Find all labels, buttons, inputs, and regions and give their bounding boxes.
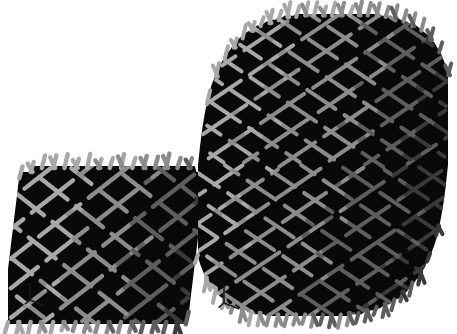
lattice-void-backdrop <box>198 14 448 316</box>
small-lattice-render <box>0 0 210 334</box>
small-woven-lattice-specimen <box>0 0 210 334</box>
large-lattice-render <box>190 0 457 334</box>
large-woven-lattice-specimen <box>190 0 457 334</box>
figure-canvas <box>0 0 457 334</box>
